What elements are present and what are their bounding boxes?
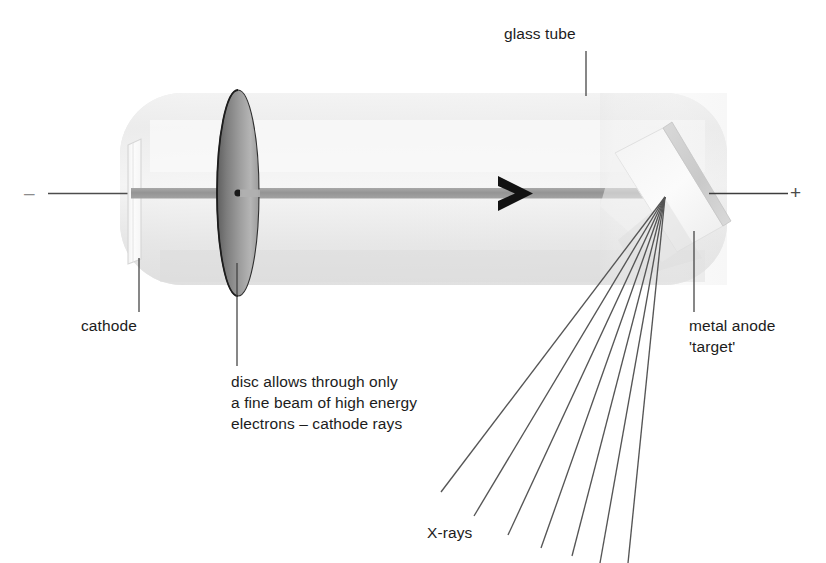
positive-terminal-sign: + <box>790 183 801 202</box>
label-xrays: X-rays <box>427 522 472 543</box>
diagram-canvas: glass tube cathode disc allows through o… <box>0 0 826 563</box>
negative-terminal-sign: – <box>24 183 35 202</box>
cathode-plate-face <box>128 139 141 264</box>
collimator-beam-exit <box>240 190 260 198</box>
cathode-plate <box>128 139 141 264</box>
collimator-disc <box>217 90 260 296</box>
electron-beam-bar <box>131 188 666 199</box>
xray-tube-diagram <box>0 0 826 563</box>
label-disc-note: disc allows through only a fine beam of … <box>231 371 417 434</box>
label-metal-anode: metal anode 'target' <box>689 315 775 357</box>
label-glass-tube: glass tube <box>504 23 576 44</box>
label-cathode: cathode <box>81 315 137 336</box>
